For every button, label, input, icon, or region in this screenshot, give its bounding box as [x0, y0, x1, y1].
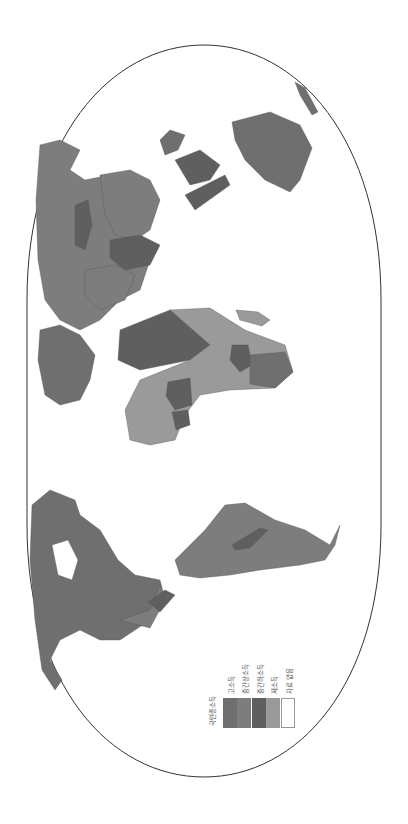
legend-label: 저소득 — [269, 676, 279, 694]
legend-item-no-data: 자료 없음 — [281, 694, 295, 728]
legend-swatch-high — [223, 698, 237, 728]
legend-item-lower-middle: 중간하소득 — [252, 694, 266, 728]
legend-swatch-no-data — [281, 698, 295, 728]
legend-item-high: 고소득 — [223, 694, 237, 728]
legend-swatch-upper-middle — [237, 698, 251, 728]
legend-title: 국민총소득 — [207, 696, 217, 726]
legend-item-upper-middle: 중간상소득 — [237, 694, 251, 728]
world-income-map — [0, 0, 408, 824]
legend-swatch-low — [266, 698, 280, 728]
legend-swatch-lower-middle — [252, 698, 266, 728]
legend-label: 중간상소득 — [240, 664, 250, 694]
legend-items: 고소득 중간상소득 중간하소득 저소득 자료 없음 — [223, 694, 295, 728]
legend-item-low: 저소득 — [266, 694, 280, 728]
legend-label: 고소득 — [226, 676, 236, 694]
legend-label: 자료 없음 — [284, 668, 294, 694]
legend-label: 중간하소득 — [255, 664, 265, 694]
map-legend: 국민총소득 고소득 중간상소득 중간하소득 저소득 자료 없음 — [205, 640, 300, 730]
